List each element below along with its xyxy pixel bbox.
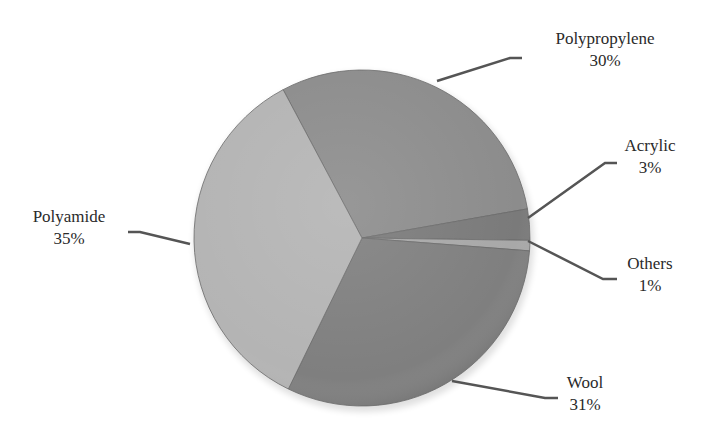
label-polypropylene-pct: 30%: [525, 50, 685, 72]
label-polyamide-pct: 35%: [14, 228, 124, 250]
leader-line-others: [528, 241, 617, 279]
label-polyamide: Polyamide 35%: [14, 206, 124, 250]
label-polypropylene: Polypropylene 30%: [525, 28, 685, 72]
label-others-pct: 1%: [615, 275, 685, 297]
label-polypropylene-name: Polypropylene: [525, 28, 685, 50]
leader-line-acrylic: [528, 163, 617, 218]
leader-line-polyamide: [128, 232, 190, 244]
label-acrylic-pct: 3%: [610, 157, 690, 179]
label-others: Others 1%: [615, 253, 685, 297]
leader-line-polypropylene: [437, 58, 522, 81]
leader-line-wool: [452, 381, 558, 398]
label-wool-pct: 31%: [555, 394, 615, 416]
label-acrylic-name: Acrylic: [610, 135, 690, 157]
label-acrylic: Acrylic 3%: [610, 135, 690, 179]
label-others-name: Others: [615, 253, 685, 275]
label-polyamide-name: Polyamide: [14, 206, 124, 228]
pie-slices: [194, 70, 530, 406]
label-wool-name: Wool: [555, 372, 615, 394]
label-wool: Wool 31%: [555, 372, 615, 416]
